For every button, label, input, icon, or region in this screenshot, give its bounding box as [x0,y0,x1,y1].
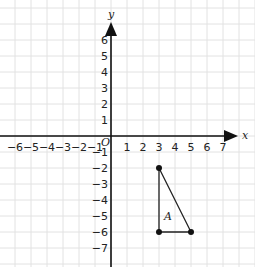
y-tick-label: 5 [101,50,108,63]
vertex-point [156,229,162,235]
x-tick-label: 3 [156,141,163,154]
y-tick-label: −3 [92,178,108,191]
vertex-point [156,165,162,171]
x-tick-label: 5 [188,141,195,154]
coordinate-plane: xyO−6−5−4−3−2−11234567654321−1−2−3−4−5−6… [0,0,255,267]
y-tick-label: −1 [92,146,108,159]
vertex-point [188,229,194,235]
shape-label: A [163,210,172,223]
y-axis-label: y [107,8,115,21]
x-tick-label: −3 [55,141,71,154]
y-tick-label: 3 [101,82,108,95]
x-tick-label: 7 [220,141,227,154]
y-tick-label: 4 [101,66,108,79]
x-axis-label: x [242,129,249,142]
x-tick-label: 4 [172,141,179,154]
coordinate-grid-diagram: xyO−6−5−4−3−2−11234567654321−1−2−3−4−5−6… [0,0,255,267]
x-tick-label: −2 [71,141,87,154]
y-tick-label: −7 [92,242,108,255]
y-tick-label: −2 [92,162,108,175]
y-tick-label: 6 [101,34,108,47]
y-tick-label: −6 [92,226,108,239]
y-tick-label: 1 [101,114,108,127]
x-tick-label: −6 [7,141,23,154]
x-tick-label: −5 [23,141,39,154]
y-tick-label: −4 [92,194,108,207]
x-tick-label: 2 [140,141,147,154]
x-tick-label: 1 [124,141,131,154]
y-tick-label: 2 [101,98,108,111]
x-tick-label: −4 [39,141,55,154]
x-tick-label: 6 [204,141,211,154]
y-tick-label: −5 [92,210,108,223]
